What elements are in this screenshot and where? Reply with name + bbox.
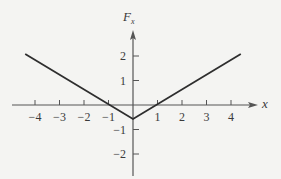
y-tick-label: −1 (113, 123, 126, 137)
x-tick-label: 4 (228, 110, 234, 124)
x-tick-label: 1 (155, 110, 161, 124)
y-tick-label: 1 (120, 74, 126, 88)
x-tick-label: −2 (78, 110, 91, 124)
x-tick-label: 3 (204, 110, 210, 124)
y-axis-label: Fx (122, 9, 135, 26)
x-tick-label: −4 (29, 110, 42, 124)
x-axis-label: x (261, 96, 268, 111)
x-tick-label: −3 (53, 110, 66, 124)
y-tick-label: 2 (120, 49, 126, 63)
x-tick-label: 2 (179, 110, 185, 124)
chart: −4−3−2−1123421−1−2 Fx x (0, 0, 281, 179)
y-tick-label: −2 (113, 147, 126, 161)
